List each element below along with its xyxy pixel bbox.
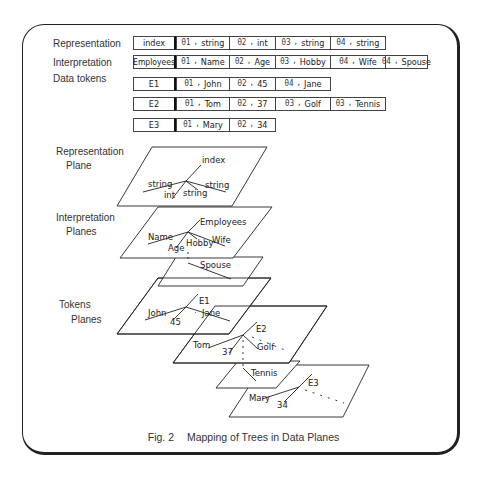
interpretation-root-label: Employees xyxy=(200,217,247,227)
figure-title: Mapping of Trees in Data Planes xyxy=(187,431,339,443)
interpretation-leaf-label: Age xyxy=(168,243,184,253)
planes-diagram: index string int string string Employees… xyxy=(0,0,487,479)
e1-leaf-label: John xyxy=(147,308,166,318)
representation-leaf-label: string xyxy=(183,188,207,198)
e1-leaf-label: 45 xyxy=(170,317,181,327)
figure-number: Fig. 2 xyxy=(148,431,174,443)
interpretation-plane xyxy=(120,207,272,258)
e1-root-label: E1 xyxy=(199,296,210,306)
interpretation-leaf-label: Wife xyxy=(212,235,231,245)
e3-leaf-label: Mary xyxy=(249,393,270,403)
e2-root-label: E2 xyxy=(256,324,267,334)
e1-leaf-label: Jane xyxy=(201,308,220,318)
representation-root-label: index xyxy=(202,155,225,165)
e3-leaf-label: 34 xyxy=(277,400,288,410)
interpretation-extra-label: Spouse xyxy=(200,260,231,270)
e3-root-label: E3 xyxy=(308,378,319,388)
interpretation-leaf-label: Name xyxy=(148,232,173,242)
e2-leaf-label: 37 xyxy=(222,347,233,357)
e2-leaf-label: Golf xyxy=(257,342,275,352)
representation-leaf-label: int xyxy=(164,190,176,200)
interpretation-leaf-label: Hobby xyxy=(186,238,213,248)
figure-caption: Fig. 2 Mapping of Trees in Data Planes xyxy=(0,431,487,443)
e2-extra-label: Tennis xyxy=(250,368,278,378)
e2-leaf-label: Tom xyxy=(192,340,210,350)
representation-leaf-label: string xyxy=(205,180,229,190)
representation-leaf-label: string xyxy=(148,179,172,189)
